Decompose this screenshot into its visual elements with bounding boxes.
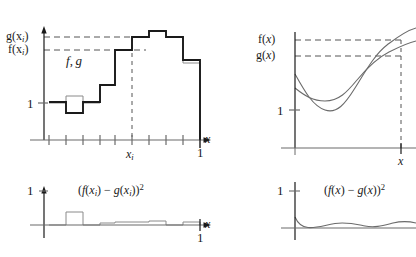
title-continuous-squared-difference: (f(x) - g(x))^2 (f(x) − g(x))2 xyxy=(324,183,385,196)
panel-continuous-squared-difference: 1 (f(x) - g(x))^2 (f(x) − g(x))2 xyxy=(215,170,416,257)
label-y-unit-top-right: 1 xyxy=(277,104,284,117)
math-figure: g(x_i) g(xi) f(x_i) f(xi) 1 f, g xi 1 x xyxy=(0,0,416,257)
top-right-plot xyxy=(215,0,416,170)
y-axis-arrowhead xyxy=(41,186,46,194)
step-curve-g xyxy=(49,31,200,140)
squared-difference-bars xyxy=(49,212,200,225)
step-curve-f xyxy=(49,31,200,140)
label-f-g: f, g xyxy=(66,54,82,67)
label-y-unit-top-left: 1 xyxy=(27,97,34,110)
panel-discrete-step-functions: g(x_i) g(xi) f(x_i) f(xi) 1 f, g xi 1 x xyxy=(0,0,215,170)
squared-difference-curve xyxy=(295,217,416,228)
bottom-right-plot xyxy=(215,170,416,257)
curve-g xyxy=(295,41,416,101)
label-y-unit-bottom-right: 1 xyxy=(277,184,284,197)
title-discrete-squared-difference: (f(x_i) - g(x_i))^2 (f(xi) − g(xi))2 xyxy=(78,183,144,198)
label-x-axis-bottom-left: x xyxy=(205,218,210,230)
label-x-axis-top-left: x xyxy=(205,133,210,145)
label-y-unit-bottom-left: 1 xyxy=(27,184,34,197)
panel-discrete-squared-difference: 1 (f(x_i) - g(x_i))^2 (f(xi) − g(xi))2 1… xyxy=(0,170,215,257)
label-f-xi: f(x_i) f(xi) xyxy=(8,43,28,57)
label-x-one-bottom-left: 1 xyxy=(197,231,204,244)
label-x-one-top-left: 1 xyxy=(197,146,204,159)
label-g-x: g(x) g(x) xyxy=(256,49,275,61)
top-left-plot xyxy=(0,0,215,170)
label-x-tick-top-right: x xyxy=(398,155,403,167)
label-f-x: f(x) f(x) xyxy=(258,33,275,45)
panel-continuous-functions: f(x) f(x) g(x) g(x) 1 x xyxy=(215,0,416,170)
y-axis-arrowhead xyxy=(41,26,46,34)
label-xi-tick: xi xyxy=(126,148,134,162)
